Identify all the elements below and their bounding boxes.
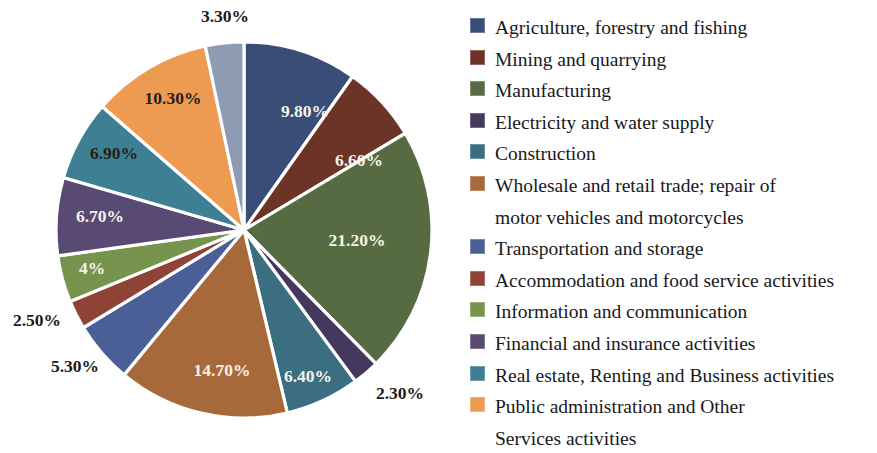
legend-item-continuation: Services activities [470, 423, 877, 453]
pie-slice-label: 9.80% [281, 101, 329, 121]
legend-item-label: Construction [495, 138, 596, 170]
pie-slice-label: 2.50% [13, 310, 61, 330]
legend-item-label: Electricity and water supply [495, 107, 714, 139]
legend-color-swatch-icon [470, 176, 485, 191]
legend-item[interactable]: Information and communication [470, 296, 877, 328]
legend-item-label: Public administration and Other [495, 391, 745, 423]
legend-item-label: Mining and quarrying [495, 44, 666, 76]
legend-item-label: Financial and insurance activities [495, 328, 755, 360]
legend-color-swatch-icon [470, 397, 485, 412]
pie-slice-label: 6.60% [335, 150, 383, 170]
legend-item[interactable]: Construction [470, 138, 877, 170]
legend-item[interactable]: Manufacturing [470, 75, 877, 107]
legend-color-swatch-icon [470, 366, 485, 381]
chart-legend: Agriculture, forestry and fishingMining … [470, 12, 877, 453]
legend-item-label: Accommodation and food service activitie… [495, 265, 834, 297]
pie-slice-label: 10.30% [145, 88, 202, 108]
legend-color-swatch-icon [470, 18, 485, 33]
legend-item-label: Real estate, Renting and Business activi… [495, 360, 834, 392]
legend-color-swatch-icon [470, 239, 485, 254]
pie-slice-label: 6.40% [284, 366, 332, 386]
legend-item-continuation-label: Services activities [495, 423, 636, 453]
legend-item-label: Agriculture, forestry and fishing [495, 12, 747, 44]
pie-slice-label: 2.30% [376, 383, 424, 403]
legend-item[interactable]: Wholesale and retail trade; repair of [470, 170, 877, 202]
pie-slice-label: 21.20% [329, 230, 386, 250]
legend-item-label: Wholesale and retail trade; repair of [495, 170, 776, 202]
legend-item[interactable]: Transportation and storage [470, 233, 877, 265]
pie-slice-label: 6.70% [76, 206, 124, 226]
legend-color-swatch-icon [470, 334, 485, 349]
legend-color-swatch-icon [470, 81, 485, 96]
legend-item-label: Transportation and storage [495, 233, 703, 265]
legend-item[interactable]: Real estate, Renting and Business activi… [470, 360, 877, 392]
legend-item-continuation-label: motor vehicles and motorcycles [495, 202, 744, 234]
legend-item[interactable]: Public administration and Other [470, 391, 877, 423]
legend-item[interactable]: Agriculture, forestry and fishing [470, 12, 877, 44]
pie-slice-label: 5.30% [51, 356, 99, 376]
legend-item[interactable]: Mining and quarrying [470, 44, 877, 76]
legend-item-continuation: motor vehicles and motorcycles [470, 202, 877, 234]
pie-chart-svg: 9.80%6.60%21.20%2.30%6.40%14.70%5.30%2.5… [0, 0, 460, 453]
legend-color-swatch-icon [470, 113, 485, 128]
legend-item-label: Manufacturing [495, 75, 611, 107]
legend-color-swatch-icon [470, 50, 485, 65]
pie-slice-label: 4% [79, 258, 105, 278]
legend-item-label: Information and communication [495, 296, 747, 328]
pie-chart-area: 9.80%6.60%21.20%2.30%6.40%14.70%5.30%2.5… [0, 0, 460, 453]
pie-slice-label: 6.90% [90, 143, 138, 163]
legend-item[interactable]: Electricity and water supply [470, 107, 877, 139]
legend-item[interactable]: Accommodation and food service activitie… [470, 265, 877, 297]
pie-slice-label: 14.70% [194, 360, 251, 380]
pie-slice-label: 3.30% [201, 6, 249, 26]
legend-color-swatch-icon [470, 302, 485, 317]
legend-color-swatch-icon [470, 144, 485, 159]
chart-root: 9.80%6.60%21.20%2.30%6.40%14.70%5.30%2.5… [0, 0, 877, 453]
legend-color-swatch-icon [470, 271, 485, 286]
legend-item[interactable]: Financial and insurance activities [470, 328, 877, 360]
